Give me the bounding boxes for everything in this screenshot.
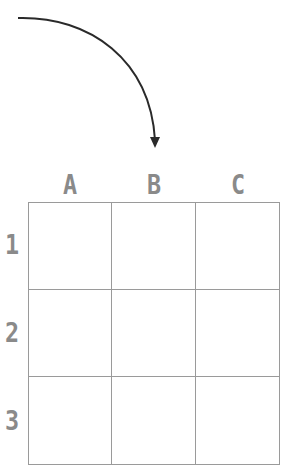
row-label-2: 2 — [5, 320, 19, 346]
grid-cell-b2 — [112, 290, 195, 377]
column-label-a: A — [32, 172, 108, 198]
grid-3x3 — [28, 202, 280, 465]
grid-cell-b1 — [112, 203, 195, 290]
row-label-1: 1 — [5, 232, 19, 258]
grid-cell-b3 — [112, 377, 195, 464]
grid-cell-a1 — [29, 203, 112, 290]
grid-cell-c3 — [196, 377, 279, 464]
curved-arrow-down-icon — [0, 0, 284, 160]
grid-cell-c1 — [196, 203, 279, 290]
grid-cell-a3 — [29, 377, 112, 464]
row-label-3: 3 — [5, 408, 19, 434]
grid-cell-a2 — [29, 290, 112, 377]
column-label-c: C — [200, 172, 276, 198]
column-label-b: B — [116, 172, 192, 198]
grid-cell-c2 — [196, 290, 279, 377]
